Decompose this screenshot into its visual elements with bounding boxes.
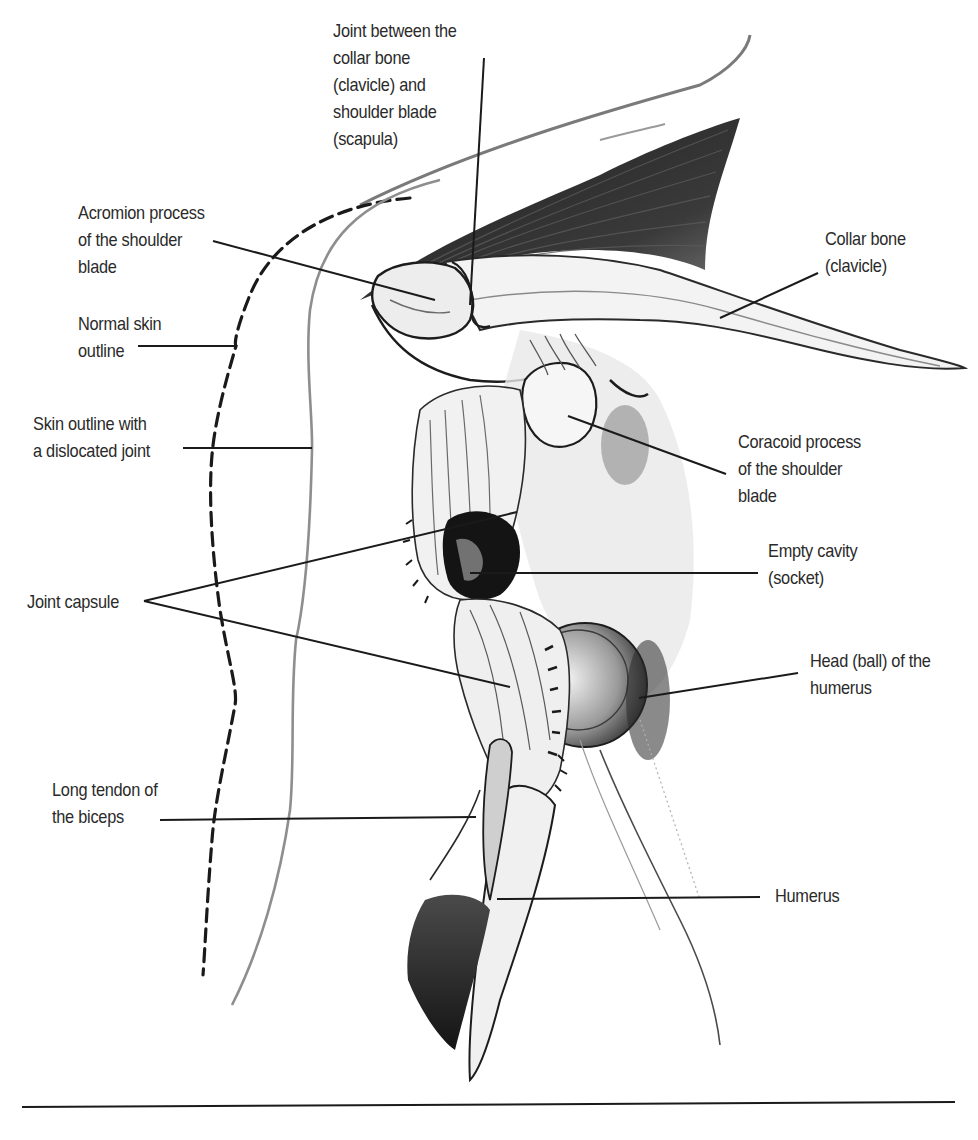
label-long-tendon-biceps: Long tendon of the biceps <box>52 776 157 830</box>
label-line: Humerus <box>775 882 839 909</box>
scapula-shadow <box>601 405 649 485</box>
label-line: Skin outline with <box>33 410 150 437</box>
label-line: of the shoulder <box>738 455 861 482</box>
label-line: Joint capsule <box>27 588 119 615</box>
label-line: (clavicle) and <box>333 71 457 98</box>
label-line: Joint between the <box>333 17 457 44</box>
label-line: (socket) <box>768 564 858 591</box>
label-normal-skin-outline: Normal skin outline <box>78 310 161 364</box>
label-line: Collar bone <box>825 225 906 252</box>
coracoid-process <box>522 363 596 447</box>
label-line: a dislocated joint <box>33 437 150 464</box>
neck-outline-fragment <box>600 124 665 140</box>
label-head-of-humerus: Head (ball) of the humerus <box>810 647 931 701</box>
label-line: Long tendon of <box>52 776 157 803</box>
footer-rule <box>22 1102 955 1107</box>
joint-capsule-lower <box>454 599 569 804</box>
label-joint-clavicle-scapula: Joint between the collar bone (clavicle)… <box>333 17 457 152</box>
label-line: Acromion process <box>78 199 205 226</box>
label-line: humerus <box>810 674 931 701</box>
label-acromion-process: Acromion process of the shoulder blade <box>78 199 205 280</box>
label-line: Normal skin <box>78 310 161 337</box>
label-skin-outline-dislocated: Skin outline with a dislocated joint <box>33 410 150 464</box>
label-line: (scapula) <box>333 125 457 152</box>
label-line: (clavicle) <box>825 252 906 279</box>
label-coracoid-process: Coracoid process of the shoulder blade <box>738 428 861 509</box>
label-line: of the shoulder <box>78 226 205 253</box>
label-line: collar bone <box>333 44 457 71</box>
acromion-process <box>372 262 473 338</box>
label-line: blade <box>78 253 205 280</box>
label-empty-cavity: Empty cavity (socket) <box>768 537 858 591</box>
label-line: the biceps <box>52 803 157 830</box>
label-humerus: Humerus <box>775 882 839 909</box>
shoulder-dislocation-figure: Joint between the collar bone (clavicle)… <box>0 0 978 1140</box>
leader-line-long-tendon-biceps <box>160 817 476 820</box>
label-line: outline <box>78 337 161 364</box>
label-line: blade <box>738 482 861 509</box>
label-joint-capsule: Joint capsule <box>27 588 119 615</box>
label-collar-bone: Collar bone (clavicle) <box>825 225 906 279</box>
leader-line-humerus <box>497 897 760 899</box>
label-line: Coracoid process <box>738 428 861 455</box>
label-line: Empty cavity <box>768 537 858 564</box>
label-line: shoulder blade <box>333 98 457 125</box>
label-line: Head (ball) of the <box>810 647 931 674</box>
